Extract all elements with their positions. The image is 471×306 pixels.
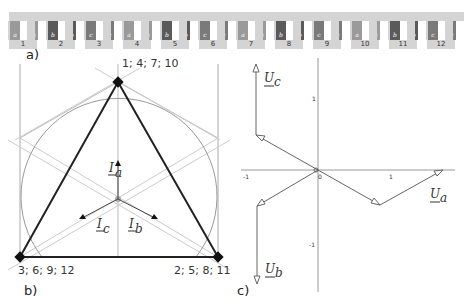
current-ia-label: I: [108, 161, 114, 175]
panel-b-label: b): [24, 283, 37, 298]
tick-y-neg: -1: [309, 241, 315, 248]
svg-text:c: c: [103, 222, 110, 236]
svg-text:a: a: [115, 166, 122, 180]
diagram-canvas: I a I b I c U a U b U c: [0, 0, 471, 306]
vertex-right-label: 2; 5; 8; 11: [174, 264, 231, 277]
svg-text:a: a: [440, 191, 447, 205]
panel-b-diagram: I a I b I c: [8, 64, 230, 270]
svg-text:b: b: [275, 266, 283, 280]
svg-text:c: c: [274, 75, 281, 89]
current-ib-label: I: [128, 217, 134, 231]
tick-x-pos: 1: [389, 173, 393, 180]
vertex-left-label: 3; 6; 9; 12: [18, 264, 75, 277]
tick-origin: 0: [318, 173, 322, 180]
current-ic-label: I: [96, 217, 102, 231]
panel-a-label: a): [26, 47, 39, 62]
panel-c-phasor-diagram: U a U b U c: [241, 58, 455, 292]
tick-y-pos: 1: [312, 95, 316, 102]
panel-c-label: c): [237, 283, 249, 298]
tick-x-neg: -1: [243, 173, 249, 180]
vertex-top-label: 1; 4; 7; 10: [122, 57, 179, 70]
svg-text:b: b: [135, 222, 143, 236]
